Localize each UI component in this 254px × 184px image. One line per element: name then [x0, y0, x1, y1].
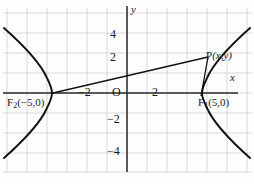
- y-tick-label--4: −4: [107, 145, 120, 157]
- segment-f2-to-p: [53, 57, 208, 93]
- point-p-coords: (x,y): [212, 49, 232, 61]
- focus-left-coords: (−5,0): [17, 96, 44, 108]
- x-tick-label-2: 2: [152, 86, 158, 98]
- focus-right-label: F1(5,0): [198, 97, 229, 110]
- plot-canvas: [0, 0, 254, 184]
- y-tick-label-2: 2: [110, 51, 116, 63]
- point-p-label: P(x,y): [206, 50, 232, 61]
- y-axis-label: y: [131, 4, 136, 15]
- y-tick-label-4: 4: [110, 28, 116, 40]
- x-axis-label: x: [230, 72, 235, 83]
- focus-right-coords: (5,0): [208, 96, 229, 108]
- x-tick-label--2: −2: [78, 86, 91, 98]
- focal-radii: [53, 57, 208, 96]
- focus-left-label: F2(−5,0): [7, 97, 44, 110]
- y-tick-label--2: −2: [107, 113, 120, 125]
- hyperbola-figure: −2 2 4 2 −2 −4 O x y F2(−5,0) F1(5,0) P(…: [0, 0, 254, 184]
- origin-label: O: [112, 86, 121, 98]
